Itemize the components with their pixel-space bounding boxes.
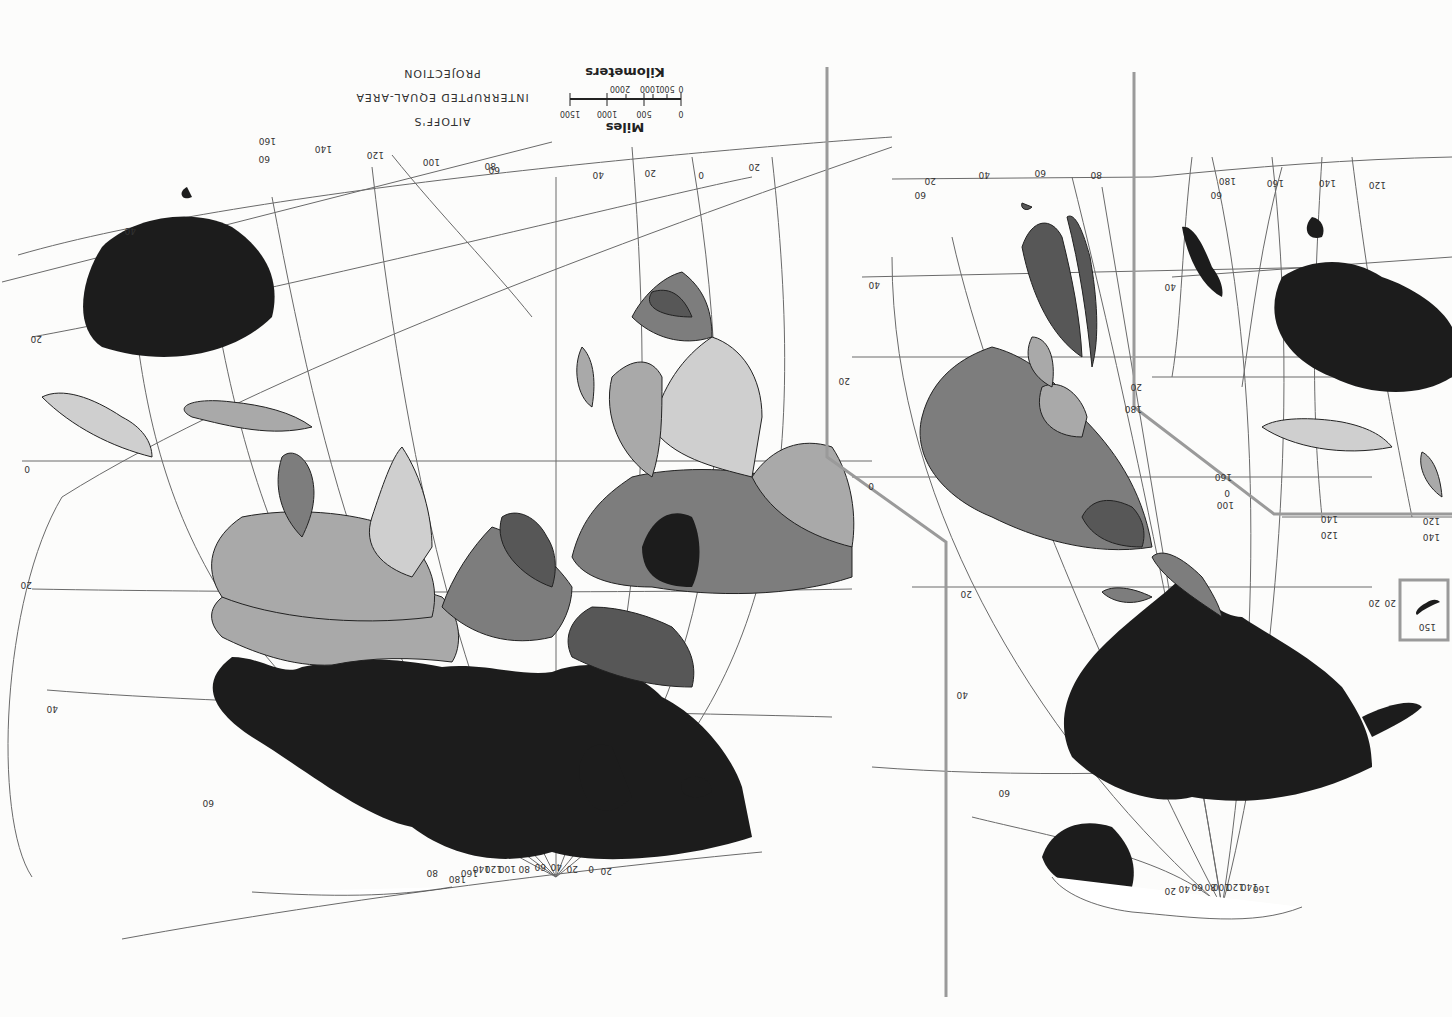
lat-label: 40 bbox=[868, 280, 880, 290]
world-map: AITOFF'S INTERRUPTED EQUAL-AREA PROJECTI… bbox=[0, 0, 1452, 1017]
lon-label: 100 bbox=[423, 157, 440, 167]
lon-label: 20 bbox=[644, 168, 656, 178]
americas-pole-labels: 160 140 120 100 80 60 40 20 bbox=[1164, 882, 1270, 896]
lon-label: 60 bbox=[1034, 168, 1046, 178]
scale-mile-tick: 1000 bbox=[597, 109, 617, 118]
title-line-2: INTERRUPTED EQUAL-AREA bbox=[355, 91, 528, 104]
pole-label: 60 bbox=[1191, 882, 1203, 892]
pole-label: 80 bbox=[426, 868, 438, 878]
scale-mile-tick: 500 bbox=[636, 109, 651, 118]
lon-label: 40 bbox=[978, 170, 990, 180]
scale-miles-label: Miles bbox=[606, 120, 645, 135]
region-africa-east bbox=[609, 362, 662, 477]
region-tasmania-pacific bbox=[1307, 217, 1324, 238]
lon-label: 0 bbox=[698, 170, 704, 180]
inset-label: 150 bbox=[1419, 622, 1436, 632]
lower-label: 120 bbox=[1321, 530, 1338, 540]
region-falklands bbox=[1022, 203, 1032, 210]
region-australia-pacific bbox=[1274, 262, 1452, 392]
pole-label: 80 bbox=[1204, 882, 1216, 892]
lat-label: 60 bbox=[914, 190, 926, 200]
region-india bbox=[369, 447, 432, 577]
scale-km-label: Kilometers bbox=[585, 65, 665, 80]
pole-label: 40 bbox=[550, 862, 562, 872]
lon-label: 120 bbox=[367, 150, 384, 160]
lat-label: 60 bbox=[202, 798, 214, 808]
scale-mile-tick: 1500 bbox=[560, 109, 580, 118]
lon-label: 40 bbox=[592, 170, 604, 180]
lat-label: 60 bbox=[1210, 190, 1222, 200]
lat-label: 40 bbox=[46, 704, 58, 714]
eastern-longitude-labels: 20 0 20 40 60 80 100 120 140 160 bbox=[259, 136, 760, 180]
region-antarctica-edge bbox=[1052, 877, 1302, 919]
lon-label: 80 bbox=[484, 161, 496, 171]
lon-label: 160 bbox=[259, 136, 276, 146]
lon-label: 160 bbox=[1267, 178, 1284, 188]
lower-label: 160 bbox=[1215, 472, 1232, 482]
lat-label: 20 bbox=[20, 580, 32, 590]
lat-label: 0 bbox=[24, 464, 30, 474]
pole-label: 20 bbox=[1164, 886, 1176, 896]
region-new-guinea-pacific bbox=[1262, 419, 1392, 451]
scale-bar: Miles Kilometers 0 500 1000 1500 0 500 1… bbox=[560, 65, 684, 135]
lower-label: 100 bbox=[1217, 500, 1234, 510]
region-hawaii bbox=[1416, 600, 1440, 615]
lat-label: 40 bbox=[1164, 282, 1176, 292]
pole-label: 20 bbox=[566, 864, 578, 874]
region-madagascar bbox=[577, 347, 594, 407]
title-line-1: AITOFF'S bbox=[414, 115, 471, 128]
pole-label: 0 bbox=[588, 864, 594, 874]
region-australia bbox=[83, 217, 275, 357]
region-caribbean bbox=[1102, 588, 1152, 603]
lat-label: 20 bbox=[30, 334, 42, 344]
lon-label: 80 bbox=[1090, 170, 1102, 180]
scale-mile-tick: 0 bbox=[678, 109, 683, 118]
lon-label: 20 bbox=[748, 162, 760, 172]
scale-km-tick: 0 bbox=[678, 84, 683, 93]
pole-label: 100 bbox=[499, 864, 516, 874]
lower-label: 140 bbox=[1423, 532, 1440, 542]
lat-label: 40 bbox=[124, 226, 136, 236]
lower-label: 180 bbox=[1125, 404, 1142, 414]
lon-label: 120 bbox=[1369, 180, 1386, 190]
inset-label: 20 bbox=[1384, 598, 1396, 608]
pole-label: 40 bbox=[1178, 884, 1190, 894]
lon-label: 140 bbox=[1319, 178, 1336, 188]
lat-label: 20 bbox=[960, 589, 972, 599]
region-northern-asia bbox=[213, 657, 752, 859]
region-sulawesi bbox=[1421, 452, 1442, 497]
americas-longitude-labels: 20 40 60 80 bbox=[924, 168, 1102, 186]
projection-title: AITOFF'S INTERRUPTED EQUAL-AREA PROJECTI… bbox=[355, 67, 528, 128]
lat-label: 20 bbox=[1130, 382, 1142, 392]
eastern-hemisphere-lobe bbox=[2, 137, 892, 939]
title-line-3: PROJECTION bbox=[403, 67, 481, 80]
region-indonesia bbox=[184, 401, 312, 431]
eastern-pole-labels: 80 180 160 140 120 100 80 60 40 20 0 20 bbox=[426, 862, 612, 884]
lon-label: 20 bbox=[924, 176, 936, 186]
pole-label: 80 bbox=[518, 864, 530, 874]
inset-label: 20 bbox=[1368, 598, 1380, 608]
region-antarctica-edge bbox=[252, 887, 452, 895]
lon-label: 180 bbox=[1219, 176, 1236, 186]
pole-label: 20 bbox=[600, 866, 612, 876]
pole-label: 60 bbox=[534, 862, 546, 872]
lat-label: 60 bbox=[998, 788, 1010, 798]
scale-km-tick: 2000 bbox=[610, 84, 630, 93]
region-tasmania bbox=[182, 187, 192, 198]
lat-label: 20 bbox=[838, 376, 850, 386]
region-africa-central bbox=[652, 337, 762, 477]
lat-label: 40 bbox=[956, 690, 968, 700]
scale-km-tick: 500 bbox=[659, 84, 674, 93]
lat-label: 60 bbox=[258, 154, 270, 164]
lat-label: 0 bbox=[1224, 488, 1230, 498]
lower-label: 120 bbox=[1423, 516, 1440, 526]
lat-label: 0 bbox=[868, 481, 874, 491]
region-new-zealand bbox=[1182, 227, 1223, 297]
region-new-guinea bbox=[42, 393, 152, 457]
region-alaska bbox=[1362, 703, 1422, 737]
lower-label: 140 bbox=[1321, 514, 1338, 524]
lon-label: 140 bbox=[315, 144, 332, 154]
scale-km-tick: 1000 bbox=[640, 84, 660, 93]
